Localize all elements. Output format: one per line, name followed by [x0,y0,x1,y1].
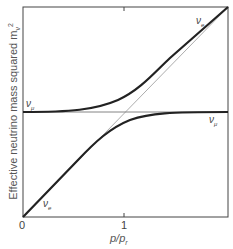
lower-branch-curve [23,112,228,217]
label-nu-mu-left: νμ [26,98,34,111]
label-nu-mu-right: νμ [209,114,217,127]
label-nu-e-upper: νe [196,15,204,28]
plot-area [0,0,233,249]
x-axis-label: p/pr [110,232,128,246]
x-tick-label-0: 0 [19,219,25,231]
y-axis-label: Effective neutrino mass squared mν2 [7,11,22,211]
label-nu-e-lower: νe [43,198,51,211]
x-tick-label-1: 1 [121,219,127,231]
